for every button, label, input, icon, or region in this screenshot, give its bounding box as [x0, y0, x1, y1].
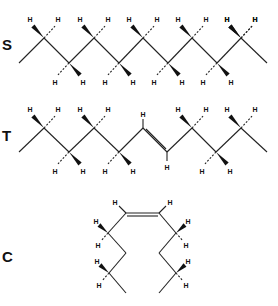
hydrogen-label: H: [167, 199, 172, 206]
bond: [176, 233, 183, 241]
hydrogen-label: H: [227, 168, 232, 175]
bond: [108, 152, 119, 164]
molecule-diagram: S T C HHHHHHHHHHHHHHHHHHHH HHHHHHHHHHHHH…: [0, 0, 278, 306]
bond: [143, 38, 168, 63]
bond: [119, 128, 143, 152]
bond: [94, 26, 105, 38]
wedge-bond: [31, 25, 44, 38]
row-label-c: C: [2, 248, 13, 265]
bond: [159, 273, 176, 293]
bond: [159, 213, 176, 233]
bond: [102, 273, 109, 281]
hydrogen-label: H: [27, 106, 32, 113]
bond: [58, 152, 69, 164]
hydrogen-label: H: [80, 168, 85, 175]
wedge-bond: [98, 223, 108, 233]
bond: [143, 26, 154, 38]
bond: [94, 38, 119, 63]
wedge-bond: [81, 25, 94, 38]
hydrogen-label: H: [130, 79, 135, 86]
hydrogen-label: H: [94, 258, 99, 265]
bond: [44, 128, 69, 152]
wedge-bond: [31, 115, 44, 128]
hydrogen-label: H: [228, 79, 233, 86]
hydrogen-label: H: [95, 242, 100, 249]
hydrogen-label: H: [252, 16, 257, 23]
hydrogen-label: H: [93, 218, 98, 225]
wedge-bond: [99, 263, 109, 273]
hydrogen-label: H: [154, 16, 159, 23]
hydrogen-label: H: [55, 16, 60, 23]
bond: [69, 128, 94, 152]
bond: [159, 206, 166, 213]
bond: [192, 128, 216, 152]
hydrogen-label: H: [96, 282, 101, 289]
wedge-bond: [81, 115, 94, 128]
hydrogen-label: H: [126, 16, 131, 23]
hydrogen-label: H: [27, 16, 32, 23]
hydrogen-label: H: [105, 16, 110, 23]
bond: [108, 213, 126, 233]
cis-chain: HHHHHHHHHH: [93, 199, 190, 293]
bond: [108, 63, 119, 75]
bond: [44, 26, 55, 38]
bond: [109, 273, 126, 293]
bond: [44, 38, 69, 63]
hydrogen-label: H: [183, 282, 188, 289]
hydrogen-label: H: [179, 79, 184, 86]
wedge-bond: [217, 63, 230, 76]
hydrogen-label: H: [164, 164, 169, 171]
bond: [109, 253, 126, 273]
hydrogen-label: H: [105, 106, 110, 113]
bond: [119, 206, 126, 213]
bond: [216, 128, 241, 152]
hydrogen-label: H: [224, 106, 229, 113]
bond: [176, 273, 183, 281]
hydrogen-label: H: [140, 111, 145, 118]
wedge-bond: [119, 63, 132, 76]
wedge-bond: [69, 63, 82, 76]
hydrogen-label: H: [185, 218, 190, 225]
hydrogen-label: H: [203, 106, 208, 113]
hydrogen-label: H: [80, 79, 85, 86]
hydrogen-label: H: [151, 79, 156, 86]
bond: [167, 128, 192, 152]
bond: [241, 26, 252, 38]
bond: [69, 38, 94, 63]
wedge-bond: [179, 25, 192, 38]
bond: [94, 128, 119, 152]
hydrogen-label: H: [102, 79, 107, 86]
hydrogen-label: H: [199, 168, 204, 175]
bond: [19, 128, 44, 152]
bond: [157, 63, 168, 75]
bond: [94, 116, 105, 128]
saturated-chain: HHHHHHHHHHHHHHHHHHHH: [19, 16, 267, 86]
hydrogen-label: H: [77, 106, 82, 113]
bond: [192, 116, 203, 128]
trans-chain: HHHHHHHHHHHHHHHH: [19, 106, 267, 175]
bond: [241, 116, 252, 128]
bond: [192, 26, 203, 38]
bond: [108, 233, 126, 253]
hydrogen-label: H: [175, 106, 180, 113]
hydrogen-label: H: [102, 168, 107, 175]
hydrogen-label: H: [252, 106, 257, 113]
row-label-t: T: [2, 127, 11, 144]
hydrogen-label: H: [203, 16, 208, 23]
bond: [217, 38, 241, 63]
wedge-bond: [119, 152, 132, 165]
wedge-bond: [69, 152, 82, 165]
bond: [241, 38, 267, 63]
wedge-bond: [130, 25, 143, 38]
hydrogen-label: H: [52, 79, 57, 86]
bond: [101, 233, 108, 241]
hydrogen-label: H: [224, 16, 229, 23]
bond: [143, 128, 167, 152]
bond: [168, 38, 192, 63]
bond: [205, 152, 216, 164]
bond: [159, 233, 176, 253]
hydrogen-label: H: [55, 106, 60, 113]
bond: [206, 63, 217, 75]
hydrogen-label: H: [77, 16, 82, 23]
bond: [58, 63, 69, 75]
